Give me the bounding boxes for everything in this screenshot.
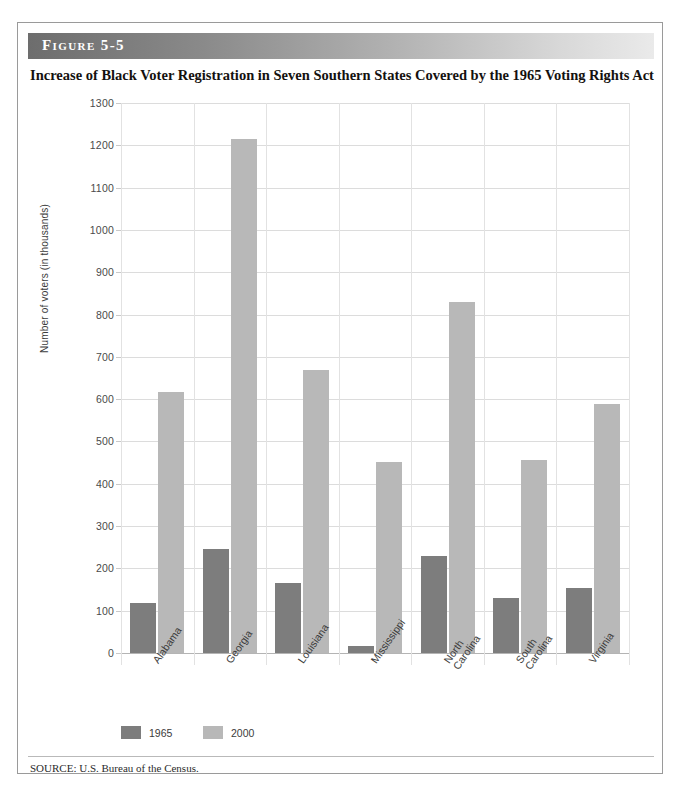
y-tick-label-300: 300 [96, 520, 114, 532]
bar-virginia-2000 [594, 404, 620, 653]
bar-alabama-1965 [130, 603, 156, 653]
y-tick-label-700: 700 [96, 351, 114, 363]
category-separator-7 [629, 103, 630, 665]
x-axis-labels: AlabamaGeorgiaLouisianaMississippiNorthC… [121, 659, 629, 729]
y-tick-label-900: 900 [96, 266, 114, 278]
y-tick-label-800: 800 [96, 309, 114, 321]
y-tick-label-1300: 1300 [90, 97, 114, 109]
y-tick-label-100: 100 [96, 605, 114, 617]
legend-label-1965: 1965 [149, 727, 172, 739]
bar-louisiana-1965 [275, 583, 301, 653]
source-divider [28, 756, 654, 757]
y-tick-label-200: 200 [96, 562, 114, 574]
axis-grid: 0100200300400500600700800900100011001200… [121, 103, 629, 653]
bar-virginia-1965 [566, 588, 592, 653]
bar-alabama-2000 [158, 392, 184, 653]
bar-south-carolina-2000 [521, 460, 547, 653]
bars-layer [121, 103, 629, 653]
bar-georgia-1965 [203, 549, 229, 653]
y-axis-title: Number of voters (in thousands) [39, 173, 50, 353]
bar-louisiana-2000 [303, 370, 329, 653]
legend-swatch-2000 [203, 726, 223, 739]
y-tick-label-400: 400 [96, 478, 114, 490]
bar-south-carolina-1965 [493, 598, 519, 653]
y-tick-label-500: 500 [96, 435, 114, 447]
y-tick-label-0: 0 [108, 647, 114, 659]
chart-plot-area: Number of voters (in thousands) 01002003… [18, 23, 664, 775]
legend-swatch-1965 [121, 726, 141, 739]
y-tick-label-1000: 1000 [90, 224, 114, 236]
y-tick-label-1200: 1200 [90, 139, 114, 151]
legend-label-2000: 2000 [231, 727, 254, 739]
y-tick-label-600: 600 [96, 393, 114, 405]
bar-north-carolina-2000 [449, 302, 475, 653]
bar-georgia-2000 [231, 139, 257, 653]
figure-box: Figure 5-5 Increase of Black Voter Regis… [17, 22, 663, 774]
bar-mississippi-1965 [348, 646, 374, 653]
figure-page: Figure 5-5 Increase of Black Voter Regis… [0, 0, 683, 796]
y-tick-label-1100: 1100 [91, 182, 114, 194]
bar-north-carolina-1965 [421, 556, 447, 653]
source-note: SOURCE: U.S. Bureau of the Census. [30, 762, 199, 774]
